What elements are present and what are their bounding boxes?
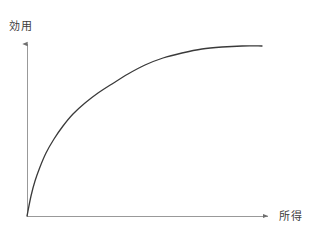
chart-figure: 効用 所得 xyxy=(0,0,315,240)
utility-income-chart xyxy=(0,0,315,240)
x-axis-label: 所得 xyxy=(279,210,302,223)
axes-group xyxy=(27,44,268,216)
data-series-group xyxy=(27,46,262,216)
y-axis-label: 効用 xyxy=(9,20,32,33)
utility-curve-path xyxy=(27,46,262,216)
